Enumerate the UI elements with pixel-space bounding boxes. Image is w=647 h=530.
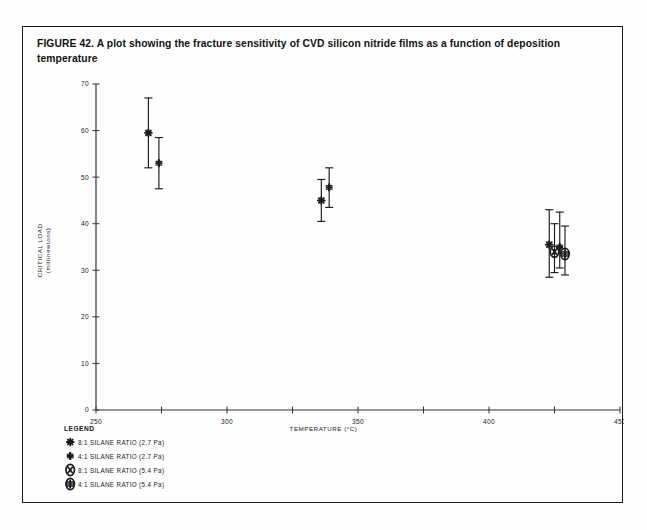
circled-x-marker-icon	[63, 463, 78, 477]
y-tick-label: 70	[81, 80, 89, 87]
legend-item: 8:1 SILANE RATIO (5.4 Pa)	[63, 463, 164, 477]
y-axis-label-line1: CRITICAL LOAD	[36, 224, 43, 278]
x-tick-label: 450	[614, 418, 624, 425]
legend-item-label: 4:1 SILANE RATIO (2.7 Pa)	[78, 453, 164, 460]
y-tick-label: 10	[81, 360, 89, 367]
series-1	[155, 138, 564, 268]
legend-item: 4:1 SILANE RATIO (2.7 Pa)	[63, 449, 164, 463]
x-tick-label: 250	[90, 418, 102, 425]
y-tick-label: 60	[81, 127, 89, 134]
y-axis-label-line2: (millinewtons)	[44, 228, 51, 274]
y-tick-label: 20	[81, 313, 89, 320]
legend-title: LEGEND	[63, 425, 164, 432]
legend-item: 4:1 SILANE RATIO (5.4 Pa)	[63, 477, 164, 491]
scatter-plot-svg: 250300350400450010203040506070	[23, 27, 624, 427]
figure-page: FIGURE 42. A plot showing the fracture s…	[0, 0, 647, 530]
x-tick-label: 300	[221, 418, 233, 425]
series-0	[144, 98, 553, 277]
y-tick-label: 30	[81, 267, 89, 274]
legend-item-label: 4:1 SILANE RATIO (5.4 Pa)	[78, 481, 164, 488]
figure-frame: FIGURE 42. A plot showing the fracture s…	[22, 26, 623, 503]
y-tick-label: 40	[81, 220, 89, 227]
legend-item: 8:1 SILANE RATIO (2.7 Pa)	[63, 435, 164, 449]
circled-plus-marker-icon	[63, 477, 78, 491]
x-tick-label: 400	[483, 418, 495, 425]
y-tick-label: 50	[81, 174, 89, 181]
x-tick-label: 350	[352, 418, 364, 425]
legend-item-label: 8:1 SILANE RATIO (5.4 Pa)	[78, 467, 164, 474]
plus-marker-icon	[63, 449, 78, 463]
series-2	[550, 224, 558, 273]
legend-item-label: 8:1 SILANE RATIO (2.7 Pa)	[78, 439, 164, 446]
asterisk-marker-icon	[63, 435, 78, 449]
y-axis-label: CRITICAL LOAD (millinewtons)	[36, 195, 53, 305]
legend-items: 8:1 SILANE RATIO (2.7 Pa)4:1 SILANE RATI…	[63, 435, 164, 491]
legend: LEGEND 8:1 SILANE RATIO (2.7 Pa)4:1 SILA…	[63, 425, 164, 491]
y-tick-label: 0	[85, 406, 89, 413]
